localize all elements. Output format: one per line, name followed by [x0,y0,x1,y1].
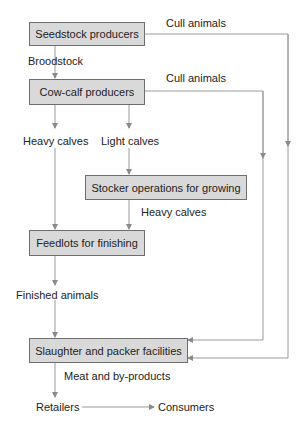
finished-animals-label: Finished animals [16,289,99,301]
consumers-node: Consumers [158,401,214,413]
meat-byproducts-label: Meat and by-products [64,370,170,382]
stocker-operations-node: Stocker operations for growing [85,175,247,200]
cowcalf-producers-node: Cow-calf producers [29,79,145,105]
slaughter-packer-node: Slaughter and packer facilities [29,338,188,363]
retailers-node: Retailers [36,401,79,413]
feedlots-node: Feedlots for finishing [29,230,145,256]
heavy-calves-label-2: Heavy calves [141,206,206,218]
cull-animals-label-1: Cull animals [166,17,226,29]
seedstock-producers-node: Seedstock producers [29,22,145,46]
light-calves-label: Light calves [101,135,159,147]
broodstock-label: Broodstock [28,55,83,67]
heavy-calves-label-1: Heavy calves [23,135,88,147]
cull-animals-label-2: Cull animals [166,72,226,84]
